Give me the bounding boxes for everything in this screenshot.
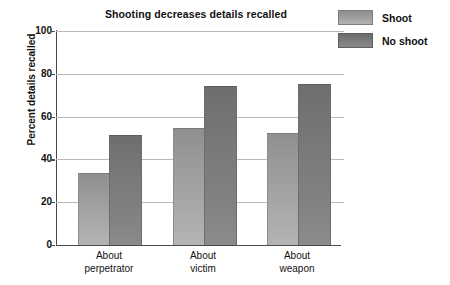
bar-no-shoot-about-victim [204,86,237,245]
y-tick-mark-0 [50,245,55,246]
gridline-80 [56,74,344,75]
legend-item-no-shoot: No shoot [338,31,446,50]
bar-shoot-about-victim [173,128,206,245]
y-tick-label-100: 100 [22,25,52,36]
page-title: Shooting decreases details recalled [56,8,336,20]
legend: Shoot No shoot [338,8,446,54]
y-tick-mark-100 [50,31,55,32]
y-tick-mark-40 [50,159,55,160]
bar-no-shoot-about-weapon [298,84,331,246]
y-tick-label-0: 0 [22,239,52,250]
legend-item-shoot: Shoot [338,8,446,27]
y-tick-mark-80 [50,74,55,75]
x-cat-line-1: About [242,250,352,263]
bar-shoot-about-perpetrator [78,173,111,245]
plot-area [56,31,336,245]
gridline-100 [56,31,344,32]
legend-label-no-shoot: No shoot [382,35,428,47]
x-axis-baseline [56,245,341,246]
y-tick-mark-60 [50,117,55,118]
legend-swatch-shoot-icon [338,10,373,25]
y-tick-label-60: 60 [22,111,52,122]
bar-shoot-about-weapon [267,133,300,245]
y-tick-label-40: 40 [22,153,52,164]
x-axis-category-about-weapon: About weapon [242,250,352,275]
legend-swatch-no-shoot-icon [338,33,373,48]
legend-label-shoot: Shoot [382,12,412,24]
bar-no-shoot-about-perpetrator [109,135,142,245]
y-tick-mark-20 [50,202,55,203]
y-axis-tick-labels: 100 80 60 40 20 0 [18,31,52,245]
x-cat-line-2: weapon [242,263,352,276]
bar-chart-figure: Shooting decreases details recalled Perc… [0,0,450,285]
y-tick-label-80: 80 [22,68,52,79]
y-tick-label-20: 20 [22,196,52,207]
